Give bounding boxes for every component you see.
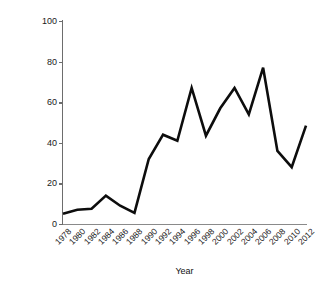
y-tick-mark — [59, 224, 63, 225]
y-tick-label: 100 — [42, 17, 57, 26]
x-axis-label: Year — [63, 266, 306, 276]
y-tick-label: 20 — [47, 179, 57, 188]
y-tick-label: 40 — [47, 138, 57, 147]
y-tick-label: 80 — [47, 57, 57, 66]
y-tick-label: 0 — [52, 220, 57, 229]
plot-area: 020406080100 — [63, 21, 306, 224]
x-axis-line — [62, 224, 307, 225]
y-tick-label: 60 — [47, 98, 57, 107]
chart-figure: 020406080100 197819801982198419861988199… — [0, 0, 317, 284]
line-series-path — [63, 68, 306, 214]
line-series-svg — [63, 21, 306, 224]
